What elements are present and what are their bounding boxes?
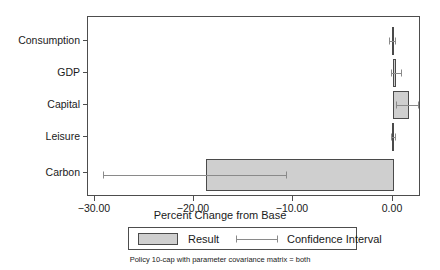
legend-ci-cap-right — [277, 235, 278, 242]
xtick-mark-minus20 — [193, 196, 194, 201]
ytick-label-carbon: Carbon — [8, 167, 80, 178]
ci-cap-right-consumption — [395, 38, 396, 45]
legend-ci-cap-left — [236, 235, 237, 242]
ci-line-carbon — [103, 175, 286, 176]
ytick-label-gdp: GDP — [8, 67, 80, 78]
legend-ci-label: Confidence Interval — [287, 233, 382, 245]
xtick-mark-zero — [392, 196, 393, 201]
chart-footnote: Policy 10-cap with parameter covariance … — [0, 255, 440, 264]
legend-result-label: Result — [188, 233, 219, 245]
xtick-mark-minus10 — [292, 196, 293, 201]
xtick-mark-minus30 — [94, 196, 95, 201]
chart-legend: Result Confidence Interval — [128, 227, 357, 250]
legend-result-swatch — [138, 233, 178, 245]
ci-line-gdp — [391, 73, 401, 74]
legend-row: Result Confidence Interval — [129, 228, 356, 249]
ci-line-capital — [396, 105, 418, 106]
chart-figure: Consumption GDP Capital Leisure Carbon — [0, 0, 440, 270]
plot-area — [87, 16, 420, 196]
ci-cap-left-capital — [396, 102, 397, 109]
x-axis-title: Percent Change from Base — [0, 209, 440, 221]
plot-inner — [88, 17, 419, 195]
ci-cap-right-gdp — [401, 70, 402, 77]
ytick-label-leisure: Leisure — [8, 131, 80, 142]
ci-cap-left-consumption — [389, 38, 390, 45]
ci-cap-right-carbon — [286, 172, 287, 179]
ci-cap-right-capital — [418, 102, 419, 109]
legend-ci-line — [236, 239, 278, 240]
ci-cap-left-gdp — [391, 70, 392, 77]
ytick-label-consumption: Consumption — [8, 35, 80, 46]
ci-cap-right-leisure — [395, 134, 396, 141]
ytick-label-capital: Capital — [8, 99, 80, 110]
ci-cap-left-leisure — [391, 134, 392, 141]
ci-cap-left-carbon — [103, 172, 104, 179]
